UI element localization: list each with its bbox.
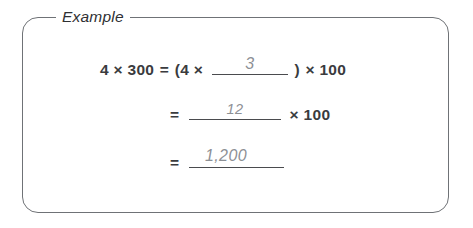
equation-2-equals-sign: = bbox=[170, 107, 179, 123]
handwritten-answer-1: 3 bbox=[212, 56, 288, 72]
equation-1-lhs: 4 × 300 bbox=[100, 62, 154, 78]
example-legend-label: Example bbox=[58, 7, 128, 26]
equation-3-equals-sign: = bbox=[170, 155, 179, 171]
equation-line-1: 4 × 300 = (4 × 3 ) × 100 bbox=[100, 59, 347, 78]
equation-1-tail: × 100 bbox=[304, 62, 347, 78]
equation-line-2: = 12 × 100 bbox=[170, 104, 331, 123]
example-box: Example 4 × 300 = (4 × 3 ) × 100 = 12 × … bbox=[22, 17, 449, 213]
equation-1-close-paren: ) bbox=[294, 62, 299, 78]
answer-blank-1[interactable]: 3 bbox=[212, 59, 288, 75]
equation-2-tail: × 100 bbox=[289, 107, 332, 123]
handwritten-answer-3: 1,200 bbox=[189, 148, 284, 164]
equation-line-3: = 1,200 bbox=[170, 152, 284, 171]
equation-1-open-paren-term: (4 × bbox=[175, 62, 203, 78]
equation-1-equals-sign: = bbox=[159, 62, 170, 78]
handwritten-answer-2: 12 bbox=[189, 102, 281, 117]
answer-blank-2[interactable]: 12 bbox=[189, 104, 281, 120]
answer-blank-3[interactable]: 1,200 bbox=[189, 152, 284, 168]
